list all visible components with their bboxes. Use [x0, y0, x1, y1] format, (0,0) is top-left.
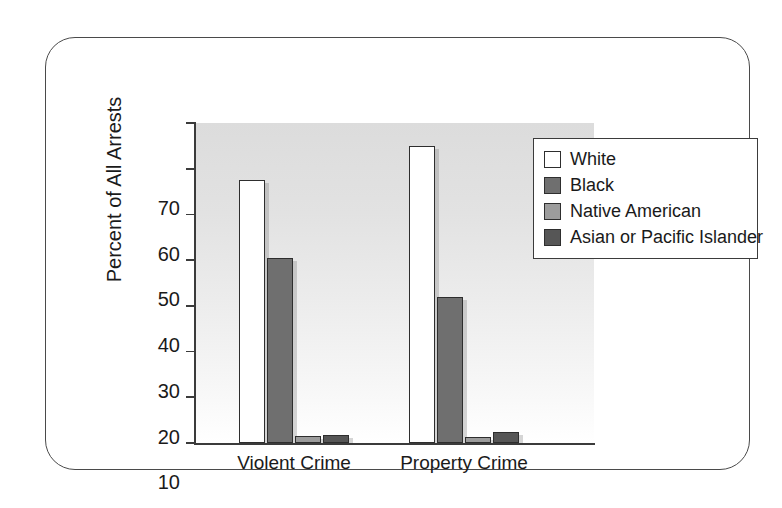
legend-swatch-icon — [544, 229, 561, 246]
y-axis-tick — [186, 442, 195, 444]
y-axis-tick — [186, 351, 195, 353]
y-axis-tick-label: 10 — [134, 472, 180, 492]
y-axis-tick-labels: 010203040506070 — [124, 123, 180, 443]
y-axis-tick-label: 40 — [134, 335, 180, 355]
y-axis-tick — [186, 259, 195, 261]
legend-item: Asian or Pacific Islander — [544, 224, 747, 250]
x-axis-tick-label: Property Crime — [374, 452, 554, 474]
legend: WhiteBlackNative AmericanAsian or Pacifi… — [533, 138, 758, 259]
bar-black-property-crime — [437, 297, 463, 443]
legend-item-label: White — [570, 150, 616, 168]
y-axis-tick-label: 50 — [134, 289, 180, 309]
bar-asian-or-pacific-islander-violent-crime — [323, 435, 349, 443]
bar-black-violent-crime — [267, 258, 293, 443]
bar-white-property-crime — [409, 146, 435, 443]
legend-item-label: Black — [570, 176, 614, 194]
y-axis-tick — [186, 122, 195, 124]
y-axis-tick-label: 20 — [134, 427, 180, 447]
legend-item: Black — [544, 172, 747, 198]
y-axis-title: Percent of All Arrests — [103, 60, 126, 320]
y-axis-tick — [186, 214, 195, 216]
y-axis-tick — [186, 305, 195, 307]
y-axis-tick — [186, 396, 195, 398]
legend-item: Native American — [544, 198, 747, 224]
legend-item-label: Asian or Pacific Islander — [570, 228, 763, 246]
legend-item-label: Native American — [570, 202, 701, 220]
x-axis-line — [194, 443, 595, 445]
legend-swatch-icon — [544, 151, 561, 168]
bar-asian-or-pacific-islander-property-crime — [493, 432, 519, 443]
bar-native-american-violent-crime — [295, 436, 321, 443]
y-axis-tick-label: 70 — [134, 198, 180, 218]
x-axis-tick-label: Violent Crime — [204, 452, 384, 474]
y-axis-tick-label: 30 — [134, 381, 180, 401]
legend-swatch-icon — [544, 203, 561, 220]
bar-white-violent-crime — [239, 180, 265, 443]
y-axis-tick — [186, 168, 195, 170]
figure-frame: 010203040506070 Percent of All Arrests V… — [45, 37, 750, 470]
legend-item: White — [544, 146, 747, 172]
y-axis-tick-label: 60 — [134, 244, 180, 264]
legend-swatch-icon — [544, 177, 561, 194]
